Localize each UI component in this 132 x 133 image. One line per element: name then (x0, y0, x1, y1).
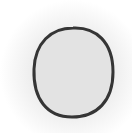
oval-shape (0, 0, 132, 133)
oval-image (0, 0, 132, 133)
